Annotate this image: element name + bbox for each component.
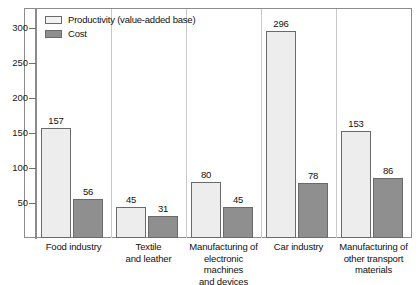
group-separator (336, 9, 337, 238)
bar-productivity (341, 131, 371, 238)
bar-productivity (191, 182, 221, 238)
bar-value-label: 31 (148, 204, 178, 214)
bar-value-label: 80 (191, 170, 221, 180)
group-separator (186, 9, 187, 238)
chart-legend: Productivity (value-added base) Cost (45, 13, 195, 41)
bar-value-label: 157 (41, 116, 71, 126)
category-label-line: materials (336, 264, 411, 276)
legend-label-productivity: Productivity (value-added base) (68, 13, 195, 26)
category-label: Manufacturing ofelectronic machinesand d… (186, 241, 261, 285)
category-label-line: and leather (111, 253, 186, 265)
bar-chart: 50100150200250300 1575645318045296781538… (0, 0, 420, 285)
legend-swatch-icon-productivity (45, 16, 62, 24)
bar-value-label: 45 (223, 195, 253, 205)
y-tick-label: 100 (0, 163, 36, 173)
category-label: Car industry (261, 241, 336, 253)
legend-item-productivity: Productivity (value-added base) (45, 13, 195, 26)
category-label-line: electronic machines (186, 253, 261, 276)
category-label-line: Car industry (261, 241, 336, 253)
y-tick-label: 300 (0, 23, 36, 33)
bar-cost (373, 178, 403, 238)
bar-value-label: 56 (73, 187, 103, 197)
category-label: Textileand leather (111, 241, 186, 264)
legend-item-cost: Cost (45, 27, 195, 40)
bar-value-label: 153 (341, 119, 371, 129)
group-separator (111, 9, 112, 238)
y-tick-label: 200 (0, 93, 36, 103)
category-label-line: Manufacturing of (186, 241, 261, 253)
bar-cost (223, 207, 253, 239)
bar-productivity (116, 207, 146, 239)
bar-productivity (266, 31, 296, 238)
bar-value-label: 86 (373, 166, 403, 176)
bar-value-label: 296 (266, 19, 296, 29)
category-label-line: other transport (336, 253, 411, 265)
bar-value-label: 45 (116, 195, 146, 205)
bar-cost (148, 216, 178, 238)
bar-value-label: 78 (298, 171, 328, 181)
legend-label-cost: Cost (68, 27, 87, 40)
category-label-line: and devices (186, 276, 261, 285)
category-label-line: Textile (111, 241, 186, 253)
category-label: Food industry (36, 241, 111, 253)
bar-cost (298, 183, 328, 238)
group-separator (261, 9, 262, 238)
y-tick-label: 250 (0, 58, 36, 68)
bar-productivity (41, 128, 71, 238)
category-label: Manufacturing ofother transportmaterials (336, 241, 411, 276)
legend-swatch-icon-cost (45, 30, 62, 38)
category-label-line: Manufacturing of (336, 241, 411, 253)
bar-cost (73, 199, 103, 238)
category-label-line: Food industry (36, 241, 111, 253)
y-tick-label: 150 (0, 128, 36, 138)
y-tick-label: 50 (0, 198, 36, 208)
